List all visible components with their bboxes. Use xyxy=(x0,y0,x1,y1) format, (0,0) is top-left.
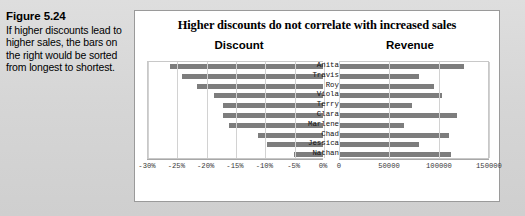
revenue-tick-labels: 050000100000150000 xyxy=(339,162,489,176)
axis-tick-label: 150000 xyxy=(476,162,502,170)
axis-tick-label: 100000 xyxy=(426,162,452,170)
chart-panel: Higher discounts do not correlate with i… xyxy=(134,10,500,202)
revenue-axis-line xyxy=(339,159,489,160)
gridline xyxy=(177,62,178,158)
revenue-bars xyxy=(339,62,488,158)
revenue-bar xyxy=(339,103,412,108)
category-label: Travis xyxy=(283,71,339,81)
revenue-bar-row xyxy=(339,111,488,121)
category-label: Viola xyxy=(283,90,339,100)
category-labels: AnitaTravisRoyViolaTerryClaraMarleneChad… xyxy=(323,61,339,159)
discount-tick-labels: -30%-25%-20%-15%-10%-5%0% xyxy=(147,162,323,176)
gridline xyxy=(339,62,340,158)
axis-tick-label: 0% xyxy=(319,162,328,170)
gridline xyxy=(389,62,390,158)
axis-tick-label: -10% xyxy=(256,162,273,170)
figure-number: Figure 5.24 xyxy=(6,10,124,23)
gridline xyxy=(148,62,149,158)
revenue-bar xyxy=(339,93,442,98)
revenue-plot xyxy=(339,61,489,159)
revenue-bar xyxy=(339,74,419,79)
revenue-bar xyxy=(339,64,464,69)
revenue-bar-row xyxy=(339,72,488,82)
gridline xyxy=(236,62,237,158)
axis-tick-label: -15% xyxy=(226,162,243,170)
axis-tick-label: -5% xyxy=(287,162,300,170)
gridline xyxy=(265,62,266,158)
category-label: Nathan xyxy=(283,149,339,159)
revenue-bar xyxy=(339,123,404,128)
figure-caption: Figure 5.24 If higher discounts lead to … xyxy=(6,10,124,74)
revenue-bar xyxy=(339,84,434,89)
revenue-bar-row xyxy=(339,131,488,141)
category-label: Clara xyxy=(283,110,339,120)
revenue-bar xyxy=(339,133,449,138)
panel-subtitles: Discount Revenue xyxy=(135,39,499,57)
gridline xyxy=(439,62,440,158)
category-label: Anita xyxy=(283,61,339,71)
revenue-bar-row xyxy=(339,82,488,92)
subtitle-revenue: Revenue xyxy=(335,39,485,51)
discount-axis-line xyxy=(147,159,323,160)
gridline xyxy=(489,62,490,158)
chart-title: Higher discounts do not correlate with i… xyxy=(135,18,499,33)
revenue-bar xyxy=(339,142,419,147)
category-label: Marlene xyxy=(283,120,339,130)
revenue-bar-row xyxy=(339,101,488,111)
revenue-bar-row xyxy=(339,91,488,101)
category-label: Jessica xyxy=(283,139,339,149)
revenue-bar-row xyxy=(339,121,488,131)
plot-area: AnitaTravisRoyViolaTerryClaraMarleneChad… xyxy=(135,61,501,173)
axis-tick-label: 0 xyxy=(337,162,341,170)
revenue-bar-row xyxy=(339,140,488,150)
axis-tick-label: -30% xyxy=(138,162,155,170)
category-label: Chad xyxy=(283,130,339,140)
gridline xyxy=(207,62,208,158)
revenue-bar xyxy=(339,152,451,157)
axis-tick-label: 50000 xyxy=(378,162,400,170)
subtitle-discount: Discount xyxy=(159,39,319,51)
category-label: Roy xyxy=(283,81,339,91)
category-label: Terry xyxy=(283,100,339,110)
revenue-bar-row xyxy=(339,62,488,72)
axis-tick-label: -20% xyxy=(197,162,214,170)
figure-caption-text: If higher discounts lead to higher sales… xyxy=(6,24,124,74)
axis-tick-label: -25% xyxy=(168,162,185,170)
